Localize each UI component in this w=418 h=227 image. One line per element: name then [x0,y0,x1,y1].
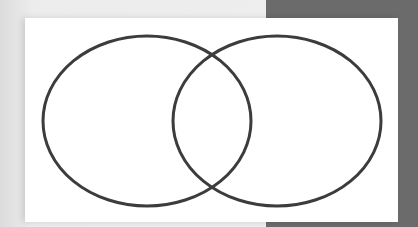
venn-set-b-ellipse [173,36,381,206]
venn-set-a-ellipse [43,36,251,206]
venn-diagram [0,0,418,227]
